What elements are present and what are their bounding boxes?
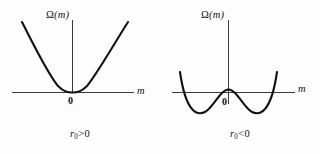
- panel-double-well: Ω(m) m 0 r0<0: [160, 0, 320, 154]
- caption-double-well: r0<0: [160, 128, 320, 139]
- origin-label: 0: [222, 97, 227, 107]
- panel-single-well: Ω(m) m 0 r0>0: [0, 0, 160, 154]
- plot-single-well: [0, 0, 160, 122]
- caption-single-well: r0>0: [0, 128, 160, 139]
- y-axis-label: Ω(m): [46, 10, 69, 21]
- plot-double-well: [160, 0, 320, 122]
- landau-potential-figure: Ω(m) m 0 r0>0 Ω(m) m 0 r0<0: [0, 0, 320, 154]
- y-axis-label: Ω(m): [201, 10, 224, 21]
- x-axis-label: m: [298, 84, 306, 95]
- x-axis-label: m: [137, 86, 145, 97]
- origin-label: 0: [68, 96, 73, 106]
- potential-curve-single-well: [22, 22, 128, 93]
